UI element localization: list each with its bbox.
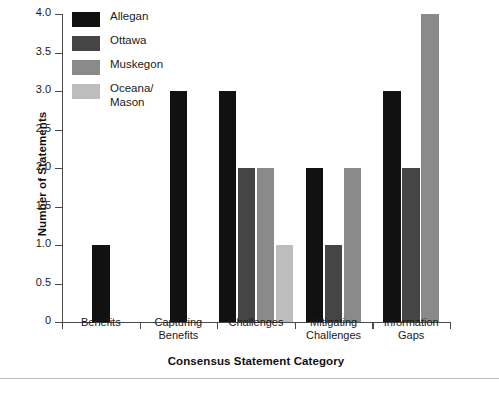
y-axis-tick: 2.0 — [55, 168, 62, 169]
bar-chart-figure: Number of Statements 00.51.01.52.02.53.0… — [0, 0, 499, 396]
y-axis-tick: 3.0 — [55, 91, 62, 92]
x-axis-group-label: Challenges — [217, 316, 295, 329]
y-axis-tick-label: 0.5 — [36, 276, 51, 288]
y-axis-tick: 1.0 — [55, 245, 62, 246]
y-axis-tick-label: 1.5 — [36, 199, 51, 211]
legend-label: Oceana/ Mason — [110, 82, 153, 109]
y-axis-tick-label: 1.0 — [36, 237, 51, 249]
y-axis-tick: 0.5 — [55, 284, 62, 285]
x-axis-group-label: Mitigating Challenges — [295, 316, 373, 342]
bar — [383, 91, 401, 322]
x-axis-title: Consensus Statement Category — [62, 355, 450, 367]
y-axis-tick-label: 3.5 — [36, 45, 51, 57]
y-axis-tick: 1.5 — [55, 207, 62, 208]
legend-swatch-icon — [72, 84, 100, 99]
y-axis-tick-label: 2.5 — [36, 122, 51, 134]
x-axis-tick — [450, 322, 451, 329]
x-axis-group-label: Benefits — [62, 316, 140, 329]
y-axis-tick: 2.5 — [55, 130, 62, 131]
legend-swatch-icon — [72, 36, 100, 51]
y-axis-tick: 3.5 — [55, 53, 62, 54]
bottom-divider — [0, 378, 499, 379]
bar — [402, 168, 420, 322]
y-axis-tick: 0 — [55, 322, 62, 323]
legend-swatch-icon — [72, 60, 100, 75]
legend-label: Muskegon — [110, 58, 163, 72]
legend-label: Allegan — [110, 10, 148, 24]
y-axis-tick: 4.0 — [55, 14, 62, 15]
y-axis-tick-label: 0 — [45, 314, 51, 326]
legend-swatch-icon — [72, 12, 100, 27]
y-axis-tick-label: 2.0 — [36, 160, 51, 172]
y-axis-tick-label: 4.0 — [36, 6, 51, 18]
bar — [421, 14, 439, 322]
x-axis-group-label: Information Gaps — [372, 316, 450, 342]
legend-label: Ottawa — [110, 34, 146, 48]
y-axis-tick-label: 3.0 — [36, 83, 51, 95]
x-axis-group-label: Capturing Benefits — [140, 316, 218, 342]
